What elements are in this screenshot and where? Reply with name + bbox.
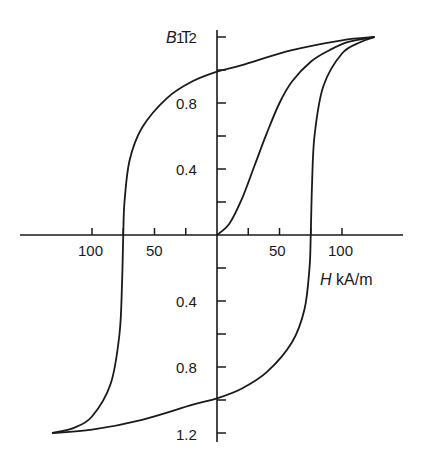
x-tick-label: 50 (269, 243, 286, 258)
y-tick-label: 0.4 (176, 294, 197, 309)
x-axis-label: H kA/m (320, 272, 372, 288)
y-tick-label: 0.4 (176, 162, 197, 177)
y-tick-label: 1.2 (176, 30, 197, 45)
y-tick-label: 0.8 (176, 360, 197, 375)
y-tick-label: 0.8 (176, 96, 197, 111)
y-tick-label: 1.2 (176, 427, 197, 442)
hysteresis-plot (0, 0, 427, 471)
x-tick-label: 100 (328, 243, 353, 258)
x-tick-label: 50 (146, 243, 163, 258)
initial-magnetization-curve (217, 37, 375, 235)
x-tick-label: 100 (78, 243, 103, 258)
